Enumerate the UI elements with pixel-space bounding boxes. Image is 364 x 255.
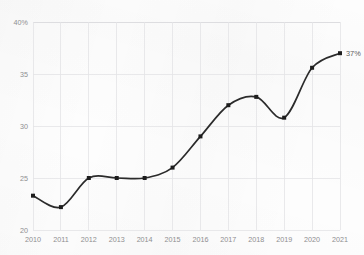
data-point-marker bbox=[310, 66, 314, 70]
data-point-marker bbox=[59, 205, 63, 209]
y-axis-tick-label: 25 bbox=[20, 174, 28, 183]
x-axis-tick-label: 2013 bbox=[109, 235, 125, 244]
endpoint-value-label: 37% bbox=[346, 49, 361, 58]
x-axis-tick-label: 2014 bbox=[137, 235, 153, 244]
data-point-marker bbox=[31, 194, 35, 198]
y-axis-tick-label: 30 bbox=[20, 122, 28, 131]
x-axis-tick-label: 2016 bbox=[192, 235, 208, 244]
data-point-marker bbox=[338, 51, 342, 55]
data-point-marker bbox=[143, 176, 147, 180]
x-axis-tick-label: 2010 bbox=[25, 235, 41, 244]
data-point-marker bbox=[171, 166, 175, 170]
x-axis-tick-label: 2018 bbox=[248, 235, 264, 244]
x-axis-tick-label: 2012 bbox=[81, 235, 97, 244]
y-axis-tick-label: 40% bbox=[14, 18, 29, 27]
x-axis-tick-label: 2020 bbox=[304, 235, 320, 244]
data-point-marker bbox=[198, 134, 202, 138]
series-markers bbox=[31, 51, 342, 209]
y-axis-tick-label: 35 bbox=[20, 70, 28, 79]
chart-plot-svg: 40%35302520 2010201120122013201420152016… bbox=[0, 0, 364, 255]
x-axis-tick-labels: 2010201120122013201420152016201720182019… bbox=[25, 235, 348, 244]
y-axis-tick-label: 20 bbox=[20, 226, 28, 235]
series-line-path bbox=[33, 53, 340, 207]
data-point-marker bbox=[115, 176, 119, 180]
x-axis-tick-label: 2019 bbox=[276, 235, 292, 244]
data-point-marker bbox=[87, 176, 91, 180]
line-chart: 40%35302520 2010201120122013201420152016… bbox=[0, 0, 364, 255]
x-axis-tick-label: 2011 bbox=[53, 235, 68, 244]
x-axis-tick-label: 2015 bbox=[165, 235, 181, 244]
x-axis-tick-label: 2017 bbox=[220, 235, 236, 244]
data-point-marker bbox=[254, 95, 258, 99]
y-axis-tick-labels: 40%35302520 bbox=[14, 18, 29, 235]
x-axis-tick-label: 2021 bbox=[332, 235, 348, 244]
data-point-marker bbox=[282, 116, 286, 120]
data-point-marker bbox=[226, 103, 230, 107]
horizontal-gridlines bbox=[33, 22, 340, 230]
endpoint-annotations: 37% bbox=[346, 49, 361, 58]
data-series bbox=[31, 51, 342, 209]
